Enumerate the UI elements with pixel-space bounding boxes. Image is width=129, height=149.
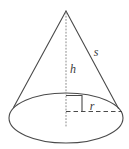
right-angle-marker — [66, 96, 82, 112]
radius-label: r — [90, 99, 95, 113]
cone-right-slant-edge — [66, 11, 119, 109]
height-label: h — [70, 62, 76, 76]
cone-diagram-container: s h r — [0, 0, 129, 149]
cone-diagram: s h r — [0, 0, 129, 149]
slant-height-label: s — [94, 45, 99, 59]
